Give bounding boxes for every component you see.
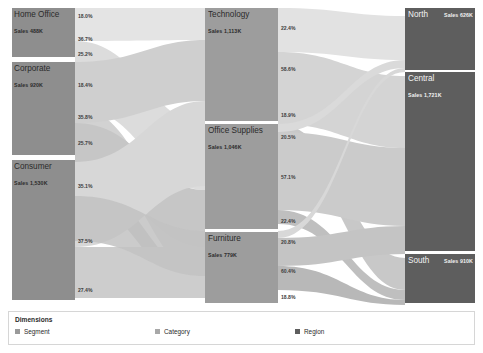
legend-item-segment[interactable]: Segment [15, 328, 155, 335]
legend-items-row: Segment Category Region [15, 328, 468, 335]
nodes-category [205, 8, 278, 303]
sankey-chart-area: Home Office Sales 488K Corporate Sales 9… [0, 0, 483, 305]
flows-category-to-region [278, 8, 405, 305]
node-technology[interactable] [205, 8, 278, 121]
node-corporate[interactable] [12, 62, 75, 155]
legend-label-category: Category [164, 328, 190, 335]
node-south[interactable] [405, 254, 475, 303]
node-central[interactable] [405, 72, 475, 251]
sankey-svg [0, 0, 483, 305]
legend-item-category[interactable]: Category [155, 328, 295, 335]
node-home-office[interactable] [12, 8, 75, 57]
legend-swatch-segment-icon [15, 329, 20, 334]
legend-label-region: Region [304, 328, 324, 335]
flow-home-office-technology[interactable] [75, 8, 205, 41]
legend-swatch-category-icon [155, 329, 160, 334]
flows-segment-to-category [75, 8, 205, 298]
nodes-region [405, 8, 475, 303]
legend-label-segment: Segment [24, 328, 50, 335]
node-north[interactable] [405, 8, 475, 70]
node-office-supplies[interactable] [205, 124, 278, 229]
node-consumer[interactable] [12, 160, 75, 300]
legend-item-region[interactable]: Region [295, 328, 324, 335]
sankey-chart-app: Home Office Sales 488K Corporate Sales 9… [0, 0, 483, 353]
legend-swatch-region-icon [295, 329, 300, 334]
node-furniture[interactable] [205, 232, 278, 303]
flow-technology-north[interactable] [278, 8, 405, 60]
legend-title: Dimensions [15, 316, 468, 323]
nodes-segment [12, 8, 75, 300]
legend-panel: Dimensions Segment Category Region [8, 311, 475, 345]
